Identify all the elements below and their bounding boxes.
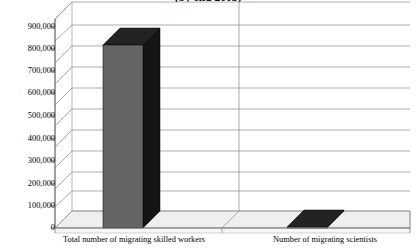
bar-chart: (by end 2003): [0, 0, 416, 248]
plot-area: [0, 0, 416, 248]
y-tick-label-700000: 700,000: [3, 66, 55, 75]
y-tick-label-600000: 600,000: [3, 88, 55, 97]
left-wall: [55, 2, 72, 228]
y-axis-ticks: [51, 27, 55, 228]
y-tick-label-500000: 500,000: [3, 111, 55, 120]
y-tick-label-0: 0: [3, 223, 55, 232]
x-category-label-migrating-scientists: Number of migrating scientists: [236, 235, 414, 245]
y-tick-label-800000: 800,000: [3, 44, 55, 53]
floor-front-edge: [55, 228, 410, 233]
y-tick-label-300000: 300,000: [3, 156, 55, 165]
y-tick-label-100000: 100,000: [3, 201, 55, 210]
y-tick-label-400000: 400,000: [3, 134, 55, 143]
y-tick-label-900000: 900,000: [3, 22, 55, 31]
x-category-label-total-migrating-skilled-workers: Total number of migrating skilled worker…: [34, 235, 234, 245]
y-tick-label-200000: 200,000: [3, 179, 55, 188]
bar-total-migrating-skilled-workers: [103, 28, 160, 228]
